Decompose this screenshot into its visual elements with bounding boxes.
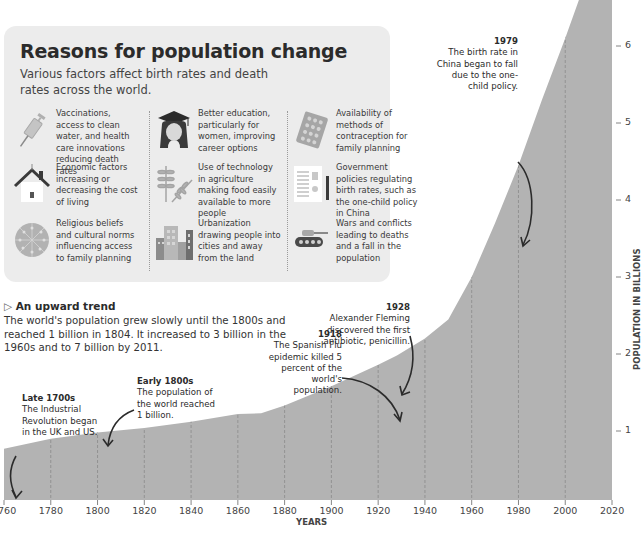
- tank-icon: [292, 218, 332, 262]
- factor-text: Economic factors increasing or decreasin…: [56, 162, 140, 208]
- trend-heading: ▷ An upward trend: [4, 300, 115, 312]
- x-tick-label: 1960: [460, 505, 484, 516]
- house-icon: [12, 162, 52, 206]
- factor-text: Urbanization drawing people into cities …: [198, 218, 282, 264]
- factor-text: Government policies regulating birth rat…: [336, 162, 420, 220]
- y-tick-label: 4: [625, 193, 631, 204]
- wheat-icon: [154, 162, 194, 206]
- factor-urbanization: Urbanization drawing people into cities …: [154, 218, 272, 282]
- x-tick-label: 1940: [413, 505, 437, 516]
- factor-text: Use of technology in agriculture making …: [198, 162, 282, 220]
- x-tick-label: 1820: [132, 505, 156, 516]
- y-tick-label: 3: [625, 270, 631, 281]
- graduate-icon: [154, 108, 194, 152]
- x-tick-label: 1920: [366, 505, 390, 516]
- x-tick-label: 1800: [86, 505, 110, 516]
- annotation-late1700s: Late 1700s The Industrial Revolution beg…: [22, 393, 102, 438]
- y-axis-title: POPULATION IN BILLIONS: [632, 248, 642, 370]
- x-tick-label: 1900: [319, 505, 343, 516]
- x-tick-label: 1780: [39, 505, 63, 516]
- factor-government: Government policies regulating birth rat…: [292, 162, 410, 226]
- triangle-marker-icon: ▷: [4, 300, 12, 312]
- x-tick-label: 2000: [553, 505, 577, 516]
- religious-symbols-icon: [12, 218, 52, 262]
- factor-agriculture: Use of technology in agriculture making …: [154, 162, 272, 226]
- y-tick-label: 2: [625, 347, 631, 358]
- x-tick-label: 1840: [179, 505, 203, 516]
- contraceptive-pill-icon: [292, 108, 332, 152]
- y-tick-label: 6: [625, 39, 631, 50]
- x-tick-label: 1860: [226, 505, 250, 516]
- factor-religious: Religious beliefs and cultural norms inf…: [12, 218, 130, 282]
- panel-subtitle: Various factors affect birth rates and d…: [20, 66, 270, 98]
- x-axis-title: YEARS: [296, 517, 327, 527]
- factor-text: Better education, particularly for women…: [198, 108, 282, 154]
- x-tick-label: 1980: [506, 505, 530, 516]
- y-tick-label: 5: [625, 116, 631, 127]
- city-buildings-icon: [154, 218, 194, 262]
- annotation-early1800s: Early 1800s The population of the world …: [137, 376, 217, 421]
- factor-text: Availability of methods of contraception…: [336, 108, 420, 154]
- column-divider: [287, 111, 288, 271]
- x-tick-label: 2020: [600, 505, 624, 516]
- annotation-1928: 1928 Alexander Fleming discovered the fi…: [318, 302, 410, 347]
- reasons-panel: Reasons for population change Various fa…: [4, 26, 390, 282]
- syringe-icon: [12, 108, 52, 152]
- factor-text: Religious beliefs and cultural norms inf…: [56, 218, 140, 264]
- factor-text: Wars and conflicts leading to deaths and…: [336, 218, 420, 264]
- factor-economic: Economic factors increasing or decreasin…: [12, 162, 130, 226]
- y-tick-label: 1: [625, 424, 631, 435]
- y-axis-ticks: [616, 46, 621, 431]
- x-tick-label: 1760: [0, 505, 16, 516]
- x-tick-label: 1880: [273, 505, 297, 516]
- factor-wars: Wars and conflicts leading to deaths and…: [292, 218, 410, 282]
- panel-title: Reasons for population change: [20, 40, 347, 62]
- column-divider: [149, 111, 150, 271]
- policy-document-icon: [292, 162, 332, 206]
- trend-body: The world's population grew slowly until…: [4, 314, 294, 355]
- annotation-1979: 1979 The birth rate in China began to fa…: [436, 36, 518, 92]
